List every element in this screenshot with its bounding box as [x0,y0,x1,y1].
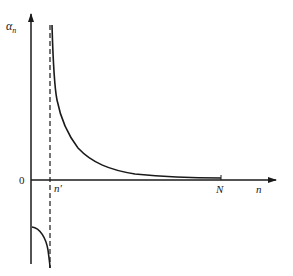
upper-curve [52,25,221,178]
y-axis-label: αn [6,19,16,35]
lower-curve [32,227,50,268]
x-axis-label: n [256,183,262,195]
origin-label: 0 [19,174,25,186]
alpha-n-diagram: αn 0 n′ N n [0,0,293,276]
n-max-label: N [215,183,224,195]
asymptote-label: n′ [54,182,63,194]
